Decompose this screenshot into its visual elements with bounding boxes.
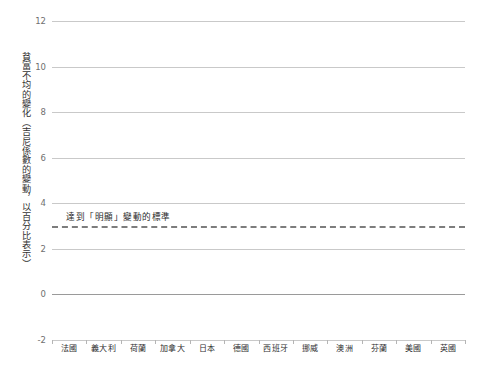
bar-series (52, 21, 465, 340)
x-axis-category-label: 加拿大 (155, 344, 189, 354)
x-axis-category-label: 日本 (190, 344, 224, 354)
x-axis-category-label: 挪威 (293, 344, 327, 354)
x-axis-tick-mark (465, 340, 466, 344)
y-axis-tick-label: 12 (6, 17, 46, 25)
x-axis-category-label: 荷蘭 (121, 344, 155, 354)
x-axis-category-label: 義大利 (86, 344, 120, 354)
x-axis-category-label: 澳洲 (327, 344, 361, 354)
chart-container: 121086420-2 貧富不均的變化（吉尼係數的變動，以百分比表示） 達到「明… (0, 0, 487, 370)
x-axis-category-label: 英國 (431, 344, 465, 354)
x-axis-category-label: 芬蘭 (362, 344, 396, 354)
x-axis-category-label: 德國 (224, 344, 258, 354)
x-axis-category-label: 法國 (52, 344, 86, 354)
x-axis-category-label: 美國 (396, 344, 430, 354)
chart-title (250, 0, 450, 9)
threshold-line (52, 226, 465, 228)
y-axis-title: 貧富不均的變化（吉尼係數的變動，以百分比表示） (18, 52, 32, 342)
x-axis-category-label: 西班牙 (259, 344, 293, 354)
plot-area: 達到「明顯」變動的標準 (52, 21, 465, 340)
threshold-line-label: 達到「明顯」變動的標準 (66, 210, 171, 222)
x-axis: 法國義大利荷蘭加拿大日本德國西班牙挪威澳洲芬蘭美國英國 (52, 340, 465, 370)
